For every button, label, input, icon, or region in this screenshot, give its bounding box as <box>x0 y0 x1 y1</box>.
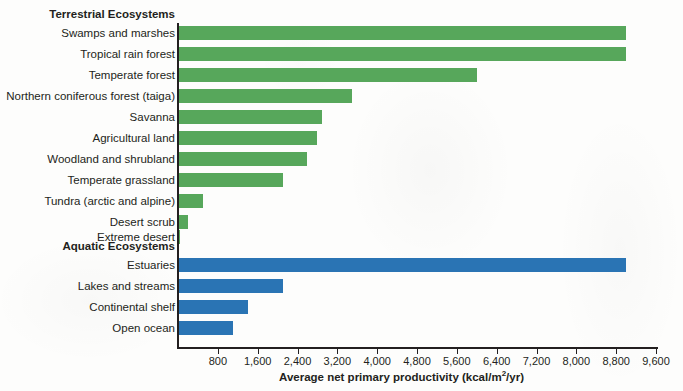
bar-row: Continental shelf <box>0 299 683 315</box>
bar-row-label: Northern coniferous forest (taiga) <box>3 88 175 104</box>
bar-continental-shelf <box>178 300 248 314</box>
bar-agricultural-land <box>178 131 317 145</box>
bar-northern-coniferous-forest-taiga <box>178 89 352 103</box>
bar-row-label: Desert scrub <box>3 214 175 230</box>
bar-woodland-and-shrubland <box>178 152 307 166</box>
bar-row: Open ocean <box>0 320 683 336</box>
bar-row-label: Savanna <box>3 109 175 125</box>
bar-row-label: Temperate forest <box>3 67 175 83</box>
x-axis-title: Average net primary productivity (kcal/m… <box>0 369 683 383</box>
bar-row: Temperate forest <box>0 67 683 83</box>
bar-row-label: Tundra (arctic and alpine) <box>3 193 175 209</box>
bar-row: Woodland and shrubland <box>0 151 683 167</box>
bar-open-ocean <box>178 321 233 335</box>
bar-row-label: Temperate grassland <box>3 172 175 188</box>
bar-row: Estuaries <box>0 257 683 273</box>
bar-row-label: Woodland and shrubland <box>3 151 175 167</box>
bar-row: Agricultural land <box>0 130 683 146</box>
bar-row: Temperate grassland <box>0 172 683 188</box>
bar-lakes-and-streams <box>178 279 283 293</box>
bar-row-label: Agricultural land <box>3 130 175 146</box>
bar-row-label: Estuaries <box>3 257 175 273</box>
bar-row-label: Swamps and marshes <box>3 25 175 41</box>
x-axis-tick-label: 9,600 <box>626 354 683 368</box>
bar-tropical-rain-forest <box>178 47 626 61</box>
bar-row: Northern coniferous forest (taiga) <box>0 88 683 104</box>
group-header-aquatic: Aquatic Ecosystems <box>0 238 683 254</box>
bar-desert-scrub <box>178 215 188 229</box>
bar-row: Tundra (arctic and alpine) <box>0 193 683 209</box>
axis-title-superscript: 2 <box>502 369 506 378</box>
bar-savanna <box>178 110 322 124</box>
bar-row-label: Lakes and streams <box>3 278 175 294</box>
bar-row: Tropical rain forest <box>0 46 683 62</box>
bar-row-label: Open ocean <box>3 320 175 336</box>
bar-estuaries <box>178 258 626 272</box>
group-header-label: Terrestrial Ecosystems <box>3 6 175 22</box>
chart-container: Terrestrial Ecosystems Swamps and marshe… <box>0 0 683 391</box>
bar-row: Savanna <box>0 109 683 125</box>
bar-row-label: Continental shelf <box>3 299 175 315</box>
y-axis-line <box>177 23 179 348</box>
bar-row: Swamps and marshes <box>0 25 683 41</box>
bar-temperate-grassland <box>178 173 283 187</box>
bar-row-label: Tropical rain forest <box>3 46 175 62</box>
bar-tundra-arctic-and-alpine <box>178 194 203 208</box>
bar-row: Desert scrub <box>0 214 683 230</box>
bar-temperate-forest <box>178 68 477 82</box>
bar-row: Lakes and streams <box>0 278 683 294</box>
group-header-terrestrial: Terrestrial Ecosystems <box>0 6 683 22</box>
bar-swamps-and-marshes <box>178 26 626 40</box>
group-header-label: Aquatic Ecosystems <box>3 238 175 254</box>
